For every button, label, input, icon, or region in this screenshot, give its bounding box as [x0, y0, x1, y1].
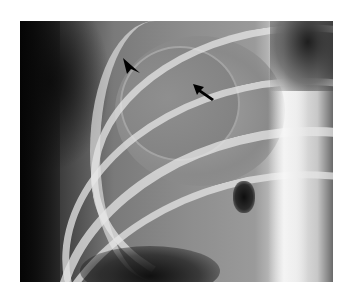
arrowhead-icon [122, 57, 142, 77]
arrow-icon [192, 83, 216, 103]
left-shadow [20, 21, 60, 282]
chest-xray-image [20, 21, 333, 282]
